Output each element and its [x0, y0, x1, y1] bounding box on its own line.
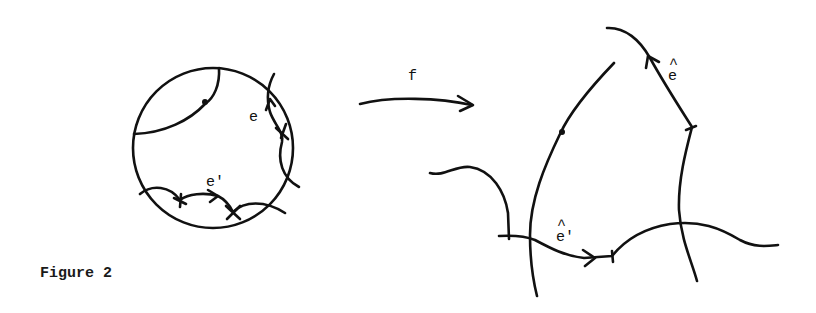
left-wavy-curve — [430, 167, 509, 239]
left-disk-figure: e e' — [133, 68, 299, 228]
vertex-dot — [202, 99, 208, 105]
label-e-hat-prime-accent: ^ — [557, 217, 566, 234]
right-image-figure: e ^ e' ^ — [430, 28, 778, 296]
figure-2-diagram: e e' f e ^ e' ^ Figure 2 — [0, 0, 816, 313]
figure-caption: Figure 2 — [40, 265, 112, 282]
label-e: e — [249, 109, 258, 126]
edge-e-hat-prime-tick-icon — [612, 251, 613, 262]
map-arrow-shaft — [360, 99, 472, 105]
middle-curve — [530, 63, 614, 296]
label-e-hat-accent: ^ — [669, 56, 678, 73]
edge-e-hat-tick-icon — [686, 126, 696, 130]
map-f: f — [360, 68, 473, 111]
label-f: f — [408, 68, 417, 85]
vertex-dot-image — [559, 129, 565, 135]
edge-e-hat-prime-curve — [499, 223, 778, 258]
edge-e-hat-curve — [607, 28, 697, 281]
label-e-prime: e' — [206, 174, 224, 191]
bottom-cross-icon-2 — [226, 206, 240, 219]
